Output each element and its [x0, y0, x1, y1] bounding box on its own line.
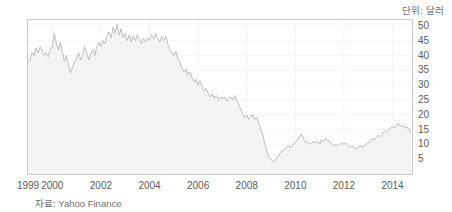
unit-caption: 단위: 달러: [402, 3, 444, 17]
chart-figure: 단위: 달러 5101520253035404550 1999200020022…: [0, 0, 452, 212]
plot-area: [27, 19, 413, 175]
x-axis-tick-label: 2008: [236, 180, 258, 192]
y-axis-tick-label: 20: [418, 110, 429, 120]
x-axis-tick-label: 2010: [284, 180, 306, 192]
x-axis-tick-label: 2002: [90, 180, 112, 192]
x-axis-tick-label: 2014: [381, 180, 403, 192]
x-axis: 199920002002200420062008201020122014: [0, 180, 452, 193]
y-axis-tick-label: 15: [418, 125, 429, 135]
y-axis: 5101520253035404550: [418, 19, 448, 175]
y-axis-tick-label: 35: [418, 65, 429, 75]
y-axis-tick-label: 30: [418, 80, 429, 90]
y-axis-tick-label: 5: [418, 154, 424, 164]
x-axis-tick-label: 2012: [333, 180, 355, 192]
y-axis-tick-label: 50: [418, 21, 429, 31]
y-axis-tick-label: 10: [418, 139, 429, 149]
x-axis-tick-label: 1999: [17, 180, 39, 192]
source-note: 자료: Yahoo Finance: [35, 196, 121, 210]
chart-svg: [28, 20, 412, 174]
x-axis-tick-label: 2006: [187, 180, 209, 192]
y-axis-tick-label: 45: [418, 36, 429, 46]
series-area-fill: [28, 24, 411, 174]
y-axis-tick-label: 40: [418, 51, 429, 61]
x-axis-tick-label: 2004: [138, 180, 160, 192]
y-axis-tick-label: 25: [418, 95, 429, 105]
x-axis-tick-label: 2000: [41, 180, 63, 192]
